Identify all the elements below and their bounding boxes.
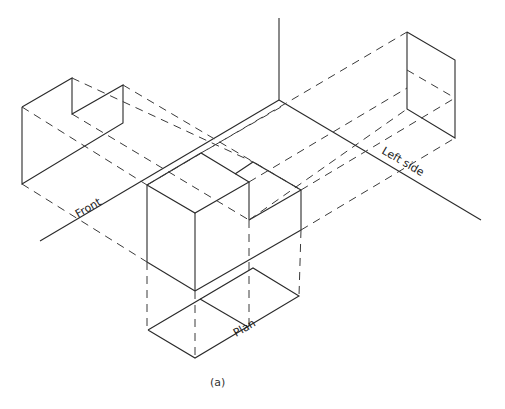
front-view bbox=[22, 78, 123, 184]
plan-view bbox=[148, 268, 299, 358]
cube-top-face bbox=[147, 153, 249, 213]
object-bottom-right bbox=[195, 230, 301, 291]
front-view-outline bbox=[22, 78, 123, 184]
front-projectors bbox=[22, 78, 301, 262]
front-axis bbox=[40, 100, 279, 241]
isometric-object bbox=[147, 153, 301, 291]
step-inner-top-edge bbox=[249, 190, 301, 220]
left-side-hidden-line bbox=[407, 70, 455, 98]
plan-label: Plan bbox=[231, 317, 258, 340]
figure-caption: (a) bbox=[210, 376, 225, 389]
orthographic-projection-diagram: Front Left side Plan (a) bbox=[0, 0, 505, 409]
cube-bottom-left bbox=[147, 262, 195, 291]
plan-projectors bbox=[147, 220, 301, 358]
front-label: Front bbox=[73, 195, 104, 221]
left-side-axis bbox=[279, 100, 481, 220]
projection-axes bbox=[40, 18, 481, 241]
step-top-back-edges bbox=[235, 162, 301, 190]
